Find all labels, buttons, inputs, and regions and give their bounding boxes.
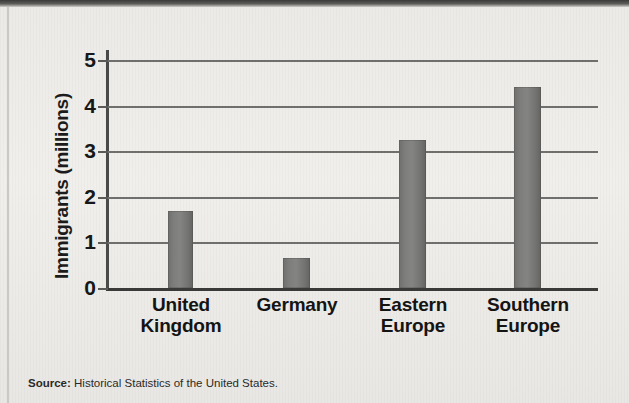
tick-mark-3	[98, 151, 108, 153]
bar-southern-europe	[514, 87, 541, 288]
y-tick-label-4: 4	[72, 95, 96, 116]
source-text: Historical Statistics of the United Stat…	[74, 377, 278, 389]
tick-mark-2	[98, 197, 108, 199]
tick-mark-4	[98, 106, 108, 108]
source-note: Source: Historical Statistics of the Uni…	[28, 377, 278, 389]
source-label: Source:	[28, 377, 71, 389]
y-tick-label-3: 3	[72, 140, 96, 161]
bar-chart: Immigrants (millions) 5 4 3 2 1 0 United…	[0, 0, 629, 403]
tick-mark-0	[98, 288, 108, 290]
x-tick-label-southern-europe: Southern Europe	[468, 294, 588, 337]
x-tick-label-united-kingdom: United Kingdom	[121, 294, 241, 337]
x-tick-label-line1: Southern	[468, 294, 588, 315]
x-tick-label-line1: Germany	[237, 294, 357, 315]
bar-eastern-europe	[399, 140, 426, 288]
bar-united-kingdom	[168, 211, 193, 289]
tick-mark-5	[98, 60, 108, 62]
x-tick-label-line2: Europe	[353, 315, 473, 336]
plot-area: 5 4 3 2 1 0 United Kingdom Germany Easte…	[108, 60, 598, 288]
x-tick-label-line2: Europe	[468, 315, 588, 336]
bar-germany	[283, 258, 310, 288]
y-tick-label-5: 5	[72, 49, 96, 70]
y-tick-label-0: 0	[72, 277, 96, 298]
y-axis-line	[106, 50, 109, 291]
x-axis-baseline	[106, 288, 598, 291]
y-tick-label-1: 1	[72, 231, 96, 252]
x-tick-label-eastern-europe: Eastern Europe	[353, 294, 473, 337]
y-tick-label-2: 2	[72, 186, 96, 207]
x-tick-label-line1: Eastern	[353, 294, 473, 315]
tick-mark-1	[98, 242, 108, 244]
x-tick-label-line2: Kingdom	[121, 315, 241, 336]
x-tick-label-line1: United	[121, 294, 241, 315]
x-tick-label-germany: Germany	[237, 294, 357, 315]
gridline-5	[108, 60, 598, 62]
y-axis-title: Immigrants (millions)	[51, 61, 73, 311]
